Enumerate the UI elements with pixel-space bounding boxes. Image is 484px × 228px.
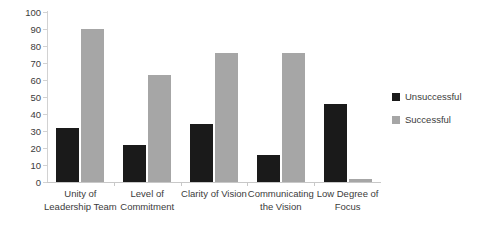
bar-successful	[215, 53, 238, 182]
y-axis-tick-label: 80	[3, 42, 41, 51]
bar-unsuccessful	[257, 155, 280, 182]
bar-chart: 1009080706050403020100 Unity ofLeadershi…	[0, 0, 484, 228]
category-label-line-1: Low Degree of	[306, 188, 389, 201]
bar-successful	[81, 29, 104, 182]
bar-group	[181, 12, 248, 182]
category-label-line-2: Focus	[306, 201, 389, 214]
y-axis-tick-label: 100	[3, 8, 41, 17]
bar-group	[114, 12, 181, 182]
y-axis-tick-label: 70	[3, 59, 41, 68]
x-axis-line	[47, 182, 381, 183]
bar-group	[314, 12, 381, 182]
bar-group	[247, 12, 314, 182]
bar-successful	[349, 179, 372, 182]
y-axis-tick-label: 20	[3, 144, 41, 153]
y-axis-tick-label: 90	[3, 25, 41, 34]
category-label-line-2: Commitment	[106, 201, 189, 214]
bar-group	[47, 12, 114, 182]
y-axis-tick-label: 60	[3, 76, 41, 85]
legend-item: Unsuccessful	[392, 88, 462, 105]
bar-successful	[282, 53, 305, 182]
x-axis-tick-mark	[247, 182, 248, 186]
x-axis-category-label: Low Degree ofFocus	[306, 188, 389, 213]
x-axis-tick-mark	[181, 182, 182, 186]
y-axis-tick-label: 10	[3, 161, 41, 170]
y-axis-tick-label: 50	[3, 93, 41, 102]
bar-unsuccessful	[190, 124, 213, 182]
x-axis-tick-mark	[114, 182, 115, 186]
legend-swatch-dark-icon	[392, 93, 400, 101]
bar-unsuccessful	[324, 104, 347, 182]
y-axis-tick-label: 30	[3, 127, 41, 136]
plot-area	[47, 12, 381, 182]
chart-legend: UnsuccessfulSuccessful	[392, 88, 462, 134]
bar-unsuccessful	[56, 128, 79, 182]
bar-unsuccessful	[123, 145, 146, 182]
bar-successful	[148, 75, 171, 182]
legend-item: Successful	[392, 111, 462, 128]
y-axis-tick-label: 40	[3, 110, 41, 119]
x-axis-tick-mark	[314, 182, 315, 186]
legend-item-label: Unsuccessful	[405, 91, 462, 102]
y-axis-tick-label: 0	[3, 178, 41, 187]
legend-swatch-light-icon	[392, 116, 400, 124]
legend-item-label: Successful	[405, 114, 451, 125]
